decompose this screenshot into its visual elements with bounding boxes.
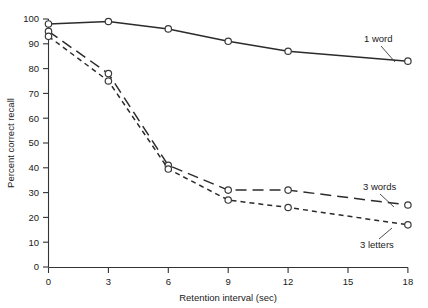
chart-figure: 100 90 80 70 60 50 40 30 20 10 0 0 3 6 9 [0,0,428,308]
data-point-marker [105,18,111,24]
chart-background [0,0,428,308]
y-axis-title: Percent correct recall [5,98,16,188]
x-tick-label: 12 [283,276,294,287]
data-point-marker [225,38,231,44]
data-point-marker [165,26,171,32]
data-point-marker [225,187,231,193]
y-tick-label: 0 [34,261,39,272]
series-label: 3 letters [360,239,394,250]
data-point-marker [405,202,411,208]
x-tick-label: 15 [343,276,354,287]
data-point-marker [45,33,51,39]
data-point-marker [105,78,111,84]
y-tick-label: 40 [28,162,39,173]
data-point-marker [45,21,51,27]
x-axis-title: Retention interval (sec) [179,292,277,303]
data-point-marker [165,166,171,172]
y-tick-label: 50 [28,137,39,148]
data-point-marker [405,222,411,228]
data-point-marker [285,48,291,54]
x-tick-label: 6 [166,276,171,287]
y-tick-label: 70 [28,88,39,99]
data-point-marker [105,70,111,76]
series-label: 3 words [363,181,397,192]
data-point-marker [285,187,291,193]
x-tick-label: 18 [403,276,414,287]
y-tick-label: 30 [28,187,39,198]
series-label: 1 word [364,33,393,44]
data-point-marker [285,204,291,210]
x-tick-label: 9 [226,276,231,287]
data-point-marker [405,58,411,64]
y-tick-label: 10 [28,237,39,248]
y-tick-label: 20 [28,212,39,223]
x-tick-label: 3 [106,276,111,287]
x-tick-label: 0 [46,276,51,287]
y-tick-label: 100 [23,13,39,24]
line-chart-svg: 100 90 80 70 60 50 40 30 20 10 0 0 3 6 9 [0,0,428,308]
data-point-marker [225,197,231,203]
y-tick-label: 60 [28,113,39,124]
y-tick-label: 90 [28,38,39,49]
y-tick-label: 80 [28,63,39,74]
